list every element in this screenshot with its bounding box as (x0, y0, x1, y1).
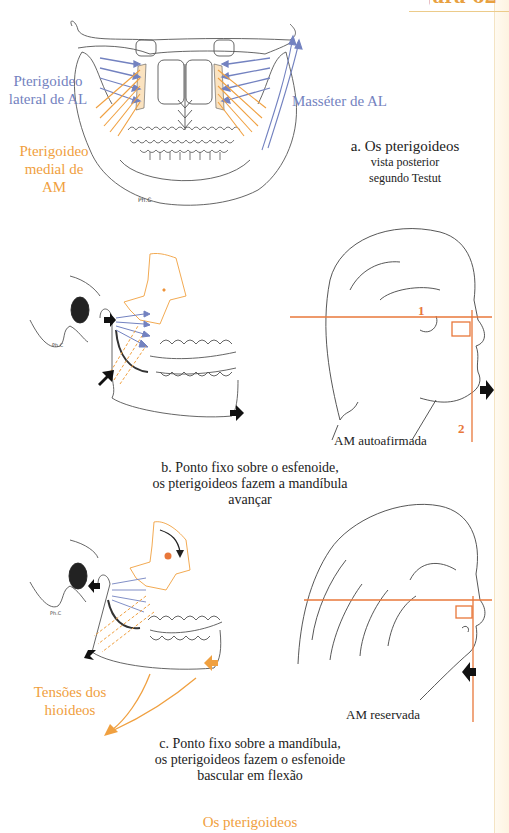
head-profile-b (326, 229, 485, 440)
hyoid-tension-arrows (104, 674, 196, 736)
label-line: Tensões dos (30, 683, 110, 701)
caption-line: bascular em flexão (120, 768, 380, 784)
sphenoid-c (130, 522, 190, 590)
arrow-down-left-icon (84, 650, 96, 660)
line-label-2: 2 (458, 420, 465, 438)
teeth-row (128, 127, 240, 160)
signature: Ph.C (50, 604, 61, 622)
sphenoid-b (124, 253, 186, 324)
label-lateral-pterygoid: Pterigoideo lateral de AL (6, 72, 90, 108)
head-label-b: AM autoafirmada (334, 432, 427, 450)
caption-a: a. Os pterigoideos vista posterior segun… (330, 138, 480, 186)
caption-b: b. Ponto fixo sobre o esfenoide, os pter… (120, 460, 380, 508)
label-line: Pterigoideo (12, 142, 96, 160)
figure-title: Os pterigoideos (150, 814, 350, 831)
caption-line: os pterigoideos fazem a mandíbula (120, 476, 380, 492)
label-medial-pterygoid: Pterigoideo medial de AM (12, 142, 96, 196)
arrow-right-icon (104, 313, 116, 327)
arrow-right-icon (480, 380, 494, 400)
caption-line: os pterigoideos fazem o esfenoide (120, 752, 380, 768)
caption-line: a. Os pterigoideos (330, 138, 480, 154)
arrow-right-icon (230, 405, 244, 421)
caption-c: c. Ponto fixo sobre a mandíbula, os pter… (120, 736, 380, 784)
caption-line: vista posterior (330, 154, 480, 170)
caption-line: avançar (120, 492, 380, 508)
caption-line: c. Ponto fixo sobre a mandíbula, (120, 736, 380, 752)
pterygoid-arrows-b (116, 311, 150, 347)
caption-line: segundo Testut (330, 170, 480, 186)
label-line: lateral de AL (6, 90, 90, 108)
signature: Ph.C (52, 336, 63, 354)
pterygoid-plates (136, 64, 224, 110)
medial-arrows-b (108, 326, 146, 384)
reference-lines-c (304, 596, 492, 722)
label-masseter: Masséter de AL (292, 92, 387, 110)
line-label-1: 1 (418, 302, 425, 320)
arrow-left-icon (462, 662, 476, 682)
caption-line: b. Ponto fixo sobre o esfenoide, (120, 460, 380, 476)
head-label-c: AM reservada (346, 706, 420, 724)
pterygoid-lines-c (112, 578, 146, 612)
arrow-up-right-icon (98, 370, 114, 386)
label-hyoid-tension: Tensões dos hioideos (30, 683, 110, 719)
movement-arrows-b (98, 313, 244, 421)
head-profile-c (298, 504, 485, 700)
rotate-arrow-icon (176, 550, 184, 558)
signature: Ph.C (138, 191, 152, 209)
movement-arrows-c (84, 579, 100, 660)
label-line: Pterigoideo (6, 72, 90, 90)
label-line: hioideos (30, 701, 110, 719)
label-line: medial de AM (12, 160, 96, 196)
